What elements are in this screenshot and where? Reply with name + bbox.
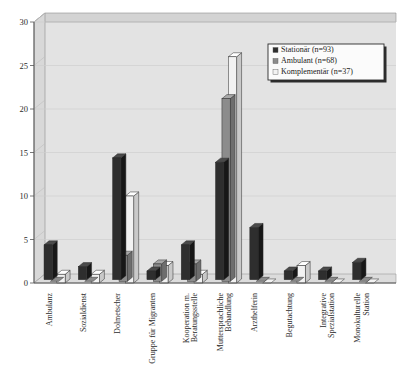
x-tick-label: Behandlung	[224, 293, 233, 332]
y-tick-label: 5	[24, 235, 28, 245]
legend-swatch	[273, 70, 278, 75]
bar-front[interactable]	[353, 262, 361, 279]
x-tick-label: Begutachtung	[285, 293, 294, 337]
x-tick-label: Spezialstation	[327, 293, 336, 338]
x-tick-label: Sozialdienst	[79, 292, 88, 332]
bar-side[interactable]	[230, 95, 235, 282]
bar-front[interactable]	[216, 162, 224, 279]
legend: Stationär (n=93)Ambulant (n=68)Komplemen…	[268, 44, 387, 83]
bar-side[interactable]	[134, 192, 139, 283]
bar-side[interactable]	[258, 223, 263, 279]
bar-front[interactable]	[113, 158, 121, 280]
x-axis-labels: AmbulanzSozialdienstDolmetscherGruppe fü…	[45, 292, 371, 363]
x-tick-label: Gruppe für Migranten	[148, 293, 157, 364]
bar-front[interactable]	[250, 228, 258, 280]
bar-side[interactable]	[121, 154, 126, 280]
bar-front[interactable]	[44, 245, 52, 280]
bar-front[interactable]	[318, 271, 326, 280]
y-tick-label: 0	[24, 278, 28, 288]
bar-front[interactable]	[147, 271, 155, 280]
bar-chart: 051015202530AmbulanzSozialdienstDolmetsc…	[0, 0, 418, 391]
x-tick-label: Station	[362, 293, 371, 316]
box-top	[34, 13, 396, 22]
bar-front[interactable]	[78, 267, 86, 280]
x-tick-label: Ambulanz	[45, 293, 54, 327]
bar-side[interactable]	[127, 251, 132, 281]
y-tick-label: 15	[20, 148, 29, 158]
legend-label: Stationär (n=93)	[281, 45, 334, 54]
bar-side[interactable]	[52, 241, 57, 280]
bar-side[interactable]	[189, 241, 194, 280]
y-tick-label: 30	[20, 17, 29, 27]
y-tick-label: 10	[20, 191, 29, 201]
bar-front[interactable]	[181, 245, 189, 280]
legend-swatch	[273, 59, 278, 64]
x-tick-label: Beratungsstelle	[190, 293, 199, 343]
legend-label: Komplementär (n=37)	[281, 67, 353, 76]
bar-side[interactable]	[224, 158, 229, 280]
x-tick-label: Dolmetscher	[113, 293, 122, 334]
y-tick-label: 20	[20, 104, 29, 114]
y-tick-label: 25	[20, 61, 29, 71]
x-tick-label: Arzthelferin	[250, 293, 259, 332]
legend-label: Ambulant (n=68)	[281, 56, 337, 65]
legend-swatch	[273, 48, 278, 53]
y-axis-labels: 051015202530	[20, 17, 29, 288]
chart-container: 051015202530AmbulanzSozialdienstDolmetsc…	[0, 0, 418, 391]
bar-front[interactable]	[284, 271, 292, 280]
bar-side[interactable]	[237, 53, 242, 283]
